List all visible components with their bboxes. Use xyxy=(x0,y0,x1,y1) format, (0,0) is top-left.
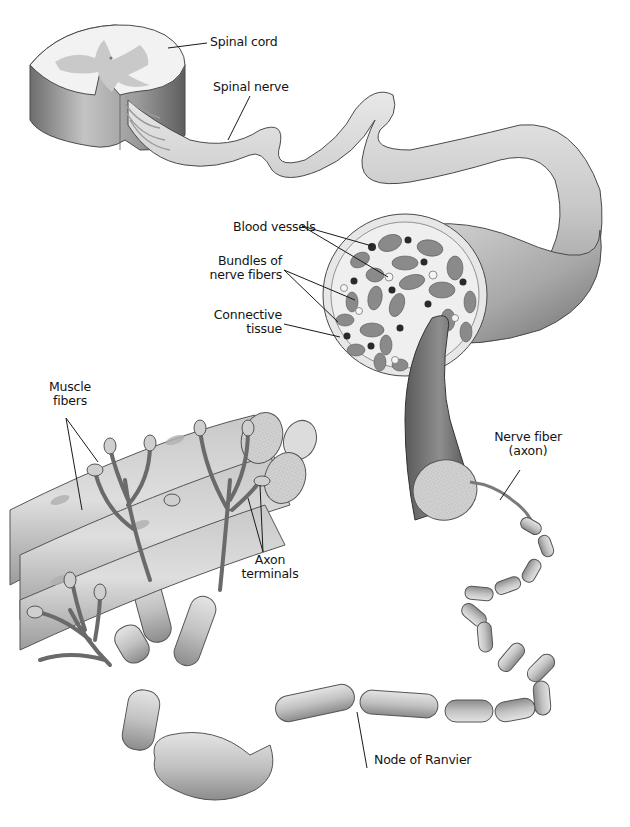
label-blood-vessels: Blood vessels xyxy=(233,220,315,234)
label-axon-line1: Axon xyxy=(235,553,305,567)
label-muscle-fibers: Muscle fibers xyxy=(40,380,100,408)
label-nerve-fiber-line2: (axon) xyxy=(488,444,568,458)
label-muscle-line2: fibers xyxy=(40,394,100,408)
label-bundles-line2: nerve fibers xyxy=(202,268,282,282)
diagram-illustration xyxy=(0,0,630,827)
label-connective-tissue: Connective tissue xyxy=(198,308,282,336)
label-axon-line2: terminals xyxy=(235,567,305,581)
label-node-of-ranvier: Node of Ranvier xyxy=(374,753,471,767)
label-nerve-fiber-axon: Nerve fiber (axon) xyxy=(488,430,568,458)
nerve-anatomy-diagram: Spinal cord Spinal nerve Blood vessels B… xyxy=(0,0,630,827)
nerve-fiber-illustration xyxy=(405,316,535,530)
label-spinal-nerve: Spinal nerve xyxy=(213,80,289,94)
label-bundles-of-nerve-fibers: Bundles of nerve fibers xyxy=(202,254,282,282)
label-connective-line2: tissue xyxy=(198,322,282,336)
label-muscle-line1: Muscle xyxy=(40,380,100,394)
label-spinal-cord: Spinal cord xyxy=(210,35,278,49)
label-nerve-fiber-line1: Nerve fiber xyxy=(488,430,568,444)
label-axon-terminals: Axon terminals xyxy=(235,553,305,581)
label-connective-line1: Connective xyxy=(198,308,282,322)
label-bundles-line1: Bundles of xyxy=(202,254,282,268)
